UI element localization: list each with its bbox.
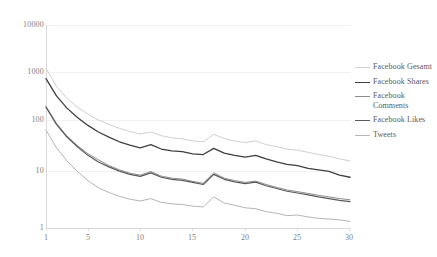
line-chart: 10000 1000 100 10 1 1 5 10 15 20 25 30 F…	[0, 0, 437, 257]
y-tick-label: 1	[4, 224, 44, 232]
legend-item[interactable]: Facebook Gesamt	[355, 62, 437, 72]
legend-swatch-line-icon	[355, 120, 370, 121]
legend-label: Facebook Shares	[373, 77, 429, 87]
series-line	[46, 79, 350, 178]
x-tick-mark	[88, 228, 89, 231]
x-tick-mark	[245, 228, 246, 231]
series-plot	[46, 25, 350, 228]
series-line	[46, 106, 350, 199]
legend-item[interactable]: Tweets	[355, 130, 437, 140]
x-tick-mark	[297, 228, 298, 231]
legend-swatch-line-icon	[355, 96, 370, 97]
y-tick-10: 10	[0, 167, 44, 175]
x-tick-5: 5	[76, 233, 100, 242]
legend-label: Facebook Likes	[373, 115, 425, 125]
x-tick-mark	[192, 228, 193, 231]
x-tick-mark	[349, 228, 350, 231]
y-tick-1: 1	[0, 224, 44, 232]
legend-item[interactable]: Facebook Shares	[355, 77, 437, 87]
y-tick-100: 100	[0, 116, 44, 124]
legend-swatch-line-icon	[355, 82, 370, 83]
x-tick-15: 15	[180, 233, 204, 242]
x-tick-1: 1	[34, 233, 58, 242]
legend-item[interactable]: Facebook Likes	[355, 115, 437, 125]
x-tick-30: 30	[337, 233, 361, 242]
legend-item[interactable]: Facebook Comments	[355, 91, 437, 110]
y-tick-label: 1000	[4, 68, 44, 76]
x-tick-10: 10	[128, 233, 152, 242]
y-tick-label: 10	[4, 167, 44, 175]
y-tick-label: 100	[4, 116, 44, 124]
x-tick-mark	[140, 228, 141, 231]
legend-label: Tweets	[373, 130, 396, 140]
legend-label: Facebook Comments	[373, 91, 437, 110]
y-tick-1000: 1000	[0, 68, 44, 76]
legend-label: Facebook Gesamt	[373, 62, 432, 72]
legend-swatch-line-icon	[355, 135, 370, 136]
x-tick-25: 25	[285, 233, 309, 242]
series-line	[46, 130, 350, 221]
series-line	[46, 68, 350, 161]
x-axis-line	[46, 228, 350, 229]
x-tick-mark	[46, 228, 47, 231]
legend-swatch-line-icon	[355, 67, 370, 68]
y-tick-label: 10000	[4, 21, 44, 29]
x-tick-20: 20	[233, 233, 257, 242]
legend: Facebook GesamtFacebook SharesFacebook C…	[355, 62, 437, 144]
y-tick-10000: 10000	[0, 21, 44, 29]
